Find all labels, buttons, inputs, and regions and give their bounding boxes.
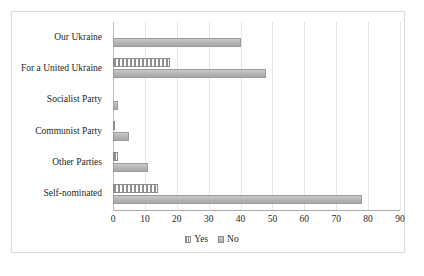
plot-area [113, 22, 400, 210]
x-axis-tick-label: 80 [363, 213, 373, 225]
chart-legend: YesNo [0, 233, 424, 245]
legend-item-yes[interactable]: Yes [185, 233, 208, 245]
y-axis-label: Socialist Party [0, 94, 102, 105]
bar-yes [113, 121, 115, 130]
legend-label: Yes [194, 233, 208, 245]
y-axis-label: Communist Party [0, 126, 102, 137]
x-axis-tick-label: 10 [140, 213, 150, 225]
bar-no [113, 69, 266, 78]
x-axis-tick-label: 0 [111, 213, 116, 225]
y-axis-label: For a United Ukraine [0, 63, 102, 74]
bar-group [113, 147, 400, 178]
x-axis-tick-label: 90 [395, 213, 405, 225]
x-axis-tick-label: 60 [300, 213, 310, 225]
y-axis-labels: Our UkraineFor a United UkraineSocialist… [0, 22, 108, 210]
bar-no [113, 38, 241, 47]
x-axis-tick-label: 20 [172, 213, 182, 225]
x-axis-tick-label: 70 [331, 213, 341, 225]
y-axis-label: Other Parties [0, 157, 102, 168]
bar-yes [113, 58, 170, 67]
y-axis-label: Self-nominated [0, 188, 102, 199]
gridline-90 [400, 22, 401, 210]
x-axis-tick-labels: 0102030405060708090 [113, 213, 400, 227]
x-axis-tick-label: 50 [268, 213, 278, 225]
legend-item-no[interactable]: No [218, 233, 239, 245]
legend-label: No [227, 233, 239, 245]
bar-chart-figure: Our UkraineFor a United UkraineSocialist… [0, 0, 424, 276]
bar-group [113, 22, 400, 53]
bar-group [113, 53, 400, 84]
bar-group [113, 116, 400, 147]
y-axis-label: Our Ukraine [0, 32, 102, 43]
x-axis-tick-label: 40 [236, 213, 246, 225]
bar-yes [113, 184, 158, 193]
bar-group [113, 179, 400, 210]
bar-group [113, 85, 400, 116]
legend-swatch-solid [218, 236, 224, 243]
bar-yes [113, 152, 118, 161]
x-axis-tick-label: 30 [204, 213, 214, 225]
bar-no [113, 163, 148, 172]
bar-no [113, 132, 129, 141]
legend-swatch-striped [185, 236, 191, 243]
x-axis-line [113, 210, 400, 211]
bar-no [113, 195, 362, 204]
bar-no [113, 101, 118, 110]
